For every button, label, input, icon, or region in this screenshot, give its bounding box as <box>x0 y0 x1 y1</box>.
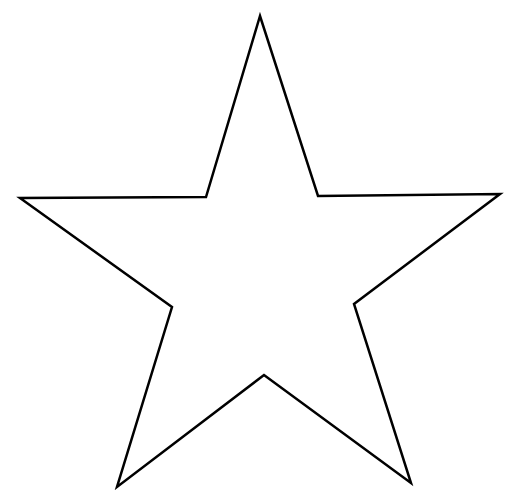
star-shape <box>20 16 500 487</box>
star-outline-icon <box>0 0 519 498</box>
drawing-canvas <box>0 0 519 498</box>
